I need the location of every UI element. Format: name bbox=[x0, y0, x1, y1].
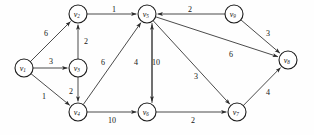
graph-figure: v1v2v3v4v5v6v7v8v9 631221610410322364 bbox=[0, 0, 314, 135]
edge-weight-v6-v5: 10 bbox=[152, 58, 160, 67]
node-v6[interactable]: v6 bbox=[138, 103, 156, 121]
edge-weight-v4-v6: 10 bbox=[108, 116, 116, 125]
edge-v4-to-v5 bbox=[83, 23, 141, 105]
node-v4[interactable]: v4 bbox=[69, 103, 87, 121]
edge-v7-to-v8 bbox=[243, 68, 280, 106]
edge-weight-v3-v4: 2 bbox=[69, 87, 73, 96]
node-v9[interactable]: v9 bbox=[225, 5, 243, 23]
node-v5[interactable]: v5 bbox=[138, 5, 156, 23]
edge-weight-v3-v2: 2 bbox=[84, 37, 88, 46]
edge-v9-to-v8 bbox=[241, 20, 280, 53]
node-v1[interactable]: v1 bbox=[15, 59, 33, 77]
edge-weight-v5-v7: 3 bbox=[194, 72, 198, 81]
edge-weight-v5-v6: 4 bbox=[134, 58, 138, 67]
edge-weight-v9-v8: 3 bbox=[266, 29, 270, 38]
edge-weight-v5-v8: 6 bbox=[229, 50, 233, 59]
edge-weight-v1-v3: 3 bbox=[49, 57, 53, 66]
node-v3[interactable]: v3 bbox=[69, 59, 87, 77]
edge-weight-v4-v5: 6 bbox=[101, 58, 105, 67]
edge-v5-to-v8 bbox=[156, 17, 278, 57]
node-v8[interactable]: v8 bbox=[279, 51, 297, 69]
edge-v1-to-v4 bbox=[31, 74, 70, 106]
edge-weight-v7-v8: 4 bbox=[266, 88, 270, 97]
edge-weight-v9-v5: 2 bbox=[188, 5, 192, 14]
graph-canvas: v1v2v3v4v5v6v7v8v9 631221610410322364 bbox=[0, 0, 314, 135]
edge-weight-v2-v5: 1 bbox=[112, 5, 116, 14]
edge-weight-v1-v4: 1 bbox=[42, 92, 46, 101]
edge-v5-to-v7 bbox=[153, 21, 230, 105]
node-v2[interactable]: v2 bbox=[69, 5, 87, 23]
edge-weight-v1-v2: 6 bbox=[44, 29, 48, 38]
edge-weight-v6-v7: 2 bbox=[191, 116, 195, 125]
node-v7[interactable]: v7 bbox=[228, 103, 246, 121]
